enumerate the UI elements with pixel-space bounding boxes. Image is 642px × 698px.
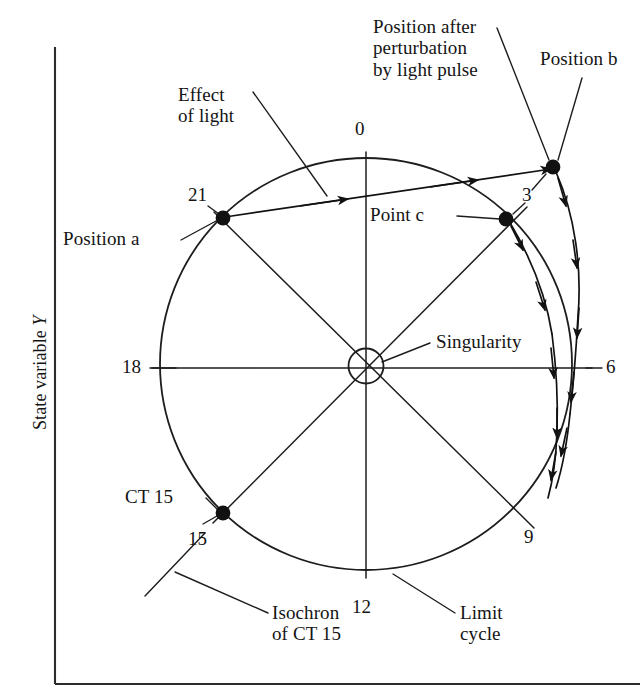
leader-position-a [181, 221, 216, 240]
dot-ct-15 [216, 506, 231, 521]
leader-tick-3b [532, 174, 546, 190]
leader-position-b [558, 78, 582, 160]
leader-limit-cycle [393, 574, 455, 613]
annotation-limit-cycle: Limit cycle [460, 602, 503, 645]
annotation-point-c: Point c [370, 204, 424, 225]
annotation-position-after-perturbation: Position after perturbation by light pul… [373, 16, 478, 80]
phase-tick-9: 9 [524, 526, 534, 547]
phase-tick-21: 21 [188, 184, 207, 205]
leader-isochron-of-ct-15 [175, 572, 268, 613]
annotation-effect-of-light: Effect of light [178, 84, 234, 127]
diagram-canvas [0, 0, 642, 698]
y-axis-title-symbol: Y [30, 315, 50, 325]
leader-effect-of-light [253, 92, 327, 196]
annotation-position-b: Position b [540, 48, 618, 69]
annotation-isochron-of-ct-15: Isochron of CT 15 [272, 602, 341, 645]
phase-tick-12: 12 [352, 596, 371, 617]
leader-tick-21 [208, 206, 219, 214]
isochron-line-21-9 [214, 212, 534, 528]
leader-point-c [457, 216, 500, 219]
phase-tick-18: 18 [122, 356, 141, 377]
dot-position-a [216, 211, 231, 226]
phase-tick-6: 6 [606, 356, 616, 377]
phase-tick-0: 0 [355, 118, 365, 139]
phase-tick-3: 3 [522, 184, 532, 205]
annotation-position-a: Position a [63, 228, 139, 249]
dot-position-b [546, 160, 561, 175]
limit-cycle-figure: State variable Y Effect of light Positio… [0, 0, 642, 698]
leader-tick-15 [203, 516, 217, 524]
y-axis-title-text: State variable [30, 330, 50, 430]
trajectory-from-position-b [556, 172, 579, 488]
annotation-singularity: Singularity [436, 331, 522, 352]
y-axis-title: State variable Y [30, 315, 50, 430]
dot-point-c [499, 212, 514, 227]
phase-tick-15: 15 [188, 528, 207, 549]
annotation-ct-15: CT 15 [125, 486, 173, 507]
